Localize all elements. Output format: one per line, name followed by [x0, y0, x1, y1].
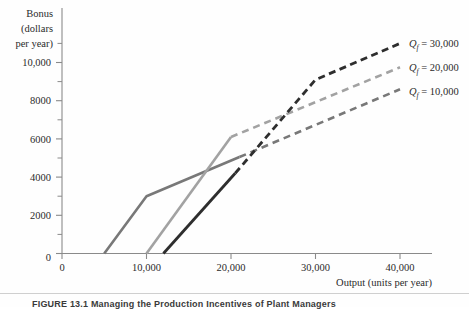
x-ticklabel-20000: 20,000	[217, 262, 246, 273]
y-ticklabel-4000: 4000	[30, 172, 51, 183]
legend-q-value-20000: = 20,000	[419, 62, 459, 73]
legend-label-qf-20000: Qf = 20,000	[409, 62, 459, 76]
x-ticklabel-0: 0	[59, 262, 64, 273]
y-ticklabel-8000: 8000	[30, 95, 51, 106]
legend-q-value-30000: = 30,000	[419, 38, 459, 49]
y-axis-title-line2: (dollars	[21, 23, 53, 35]
y-axis-title-line1: Bonus	[26, 8, 53, 19]
x-axis-title: Output (units per year)	[336, 277, 432, 289]
x-ticklabel-30000: 30,000	[301, 262, 330, 273]
legend-label-qf-10000: Qf = 10,000	[409, 86, 459, 100]
series-qf-20000-dashed	[231, 67, 400, 137]
legend-label-qf-30000: Qf = 30,000	[409, 38, 459, 52]
series-qf-10000-solid-path	[104, 157, 239, 253]
y-ticklabel-10000: 10,000	[22, 57, 51, 68]
series-qf-20000-solid	[147, 137, 232, 254]
legend-q-value-10000: = 10,000	[419, 86, 459, 97]
figure-bottom-divider	[0, 293, 469, 294]
y-ticklabel-6000: 6000	[30, 134, 51, 145]
y-axis-title-line3: per year)	[15, 38, 53, 50]
series-qf-30000-dashed	[235, 43, 400, 173]
y-ticklabel-0: 0	[46, 252, 51, 263]
y-ticklabel-2000: 2000	[30, 210, 51, 221]
figure-caption: FIGURE 13.1 Managing the Production Ince…	[32, 299, 462, 309]
x-ticklabel-10000: 10,000	[132, 262, 161, 273]
x-ticklabel-40000: 40,000	[386, 262, 415, 273]
